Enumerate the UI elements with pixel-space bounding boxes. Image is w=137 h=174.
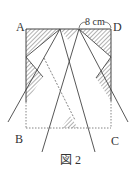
label-D: D [113,20,122,34]
label-C: C [111,134,119,148]
label-A: A [16,20,25,34]
label-B: B [15,132,23,146]
folded-rectangle-figure: A D B C 8 cm 図 2 [0,0,137,174]
figure-caption: 図 2 [60,153,81,167]
long-line-center-b [60,29,95,152]
hatched-region-bottom-center [61,116,78,128]
dashed-diagonal [44,58,75,120]
hatched-region-right-lower [96,57,111,101]
dimension-label: 8 cm [85,16,105,27]
